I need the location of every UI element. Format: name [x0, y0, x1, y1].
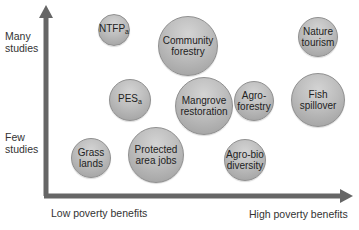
- bubble-label: Protected area jobs: [135, 144, 178, 167]
- bubble-pes: PESa: [109, 79, 151, 121]
- bubble-grass-lands: Grass lands: [71, 138, 111, 178]
- bubble-label: Agro- forestry: [237, 90, 270, 113]
- bubble-label: Fish spillover: [300, 89, 337, 112]
- y-axis-bottom-label: Few studies: [5, 131, 38, 155]
- bubble-label-subscript: a: [125, 28, 129, 35]
- bubble-fish-spillover: Fish spillover: [291, 73, 345, 127]
- bubble-label: Nature tourism: [302, 26, 335, 49]
- bubble-label: PESa: [118, 93, 142, 108]
- bubble-mangrove-restoration: Mangrove restoration: [175, 77, 233, 135]
- y-axis-arrowhead: [39, 5, 53, 18]
- bubble-label: Grass lands: [78, 147, 105, 170]
- y-axis-top-label: Many studies: [5, 30, 38, 54]
- bubble-label: Agro-bio diversity: [226, 149, 264, 172]
- bubble-agro-forestry: Agro- forestry: [234, 81, 274, 121]
- bubble-label: NTFPa: [99, 23, 129, 38]
- bubble-ntfp: NTFPa: [98, 14, 130, 46]
- x-axis-right-label: High poverty benefits: [249, 208, 348, 220]
- bubble-nature-tourism: Nature tourism: [298, 17, 338, 57]
- bubble-agro-bio-diversity: Agro-bio diversity: [224, 139, 266, 181]
- x-axis-left-label: Low poverty benefits: [51, 207, 147, 219]
- bubble-label-subscript: a: [138, 98, 142, 105]
- bubble-label: Mangrove restoration: [180, 95, 227, 118]
- bubble-label: Community forestry: [163, 35, 214, 58]
- bubble-protected-area-jobs: Protected area jobs: [128, 127, 184, 183]
- x-axis-arrowhead: [340, 189, 353, 203]
- bubble-community-forestry: Community forestry: [158, 16, 218, 76]
